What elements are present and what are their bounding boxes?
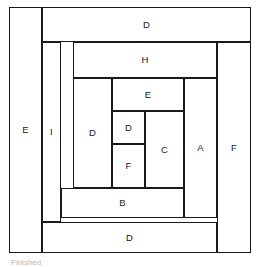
- patch-label: D: [125, 123, 132, 133]
- patch-e-inner: E: [112, 78, 184, 111]
- patch-h: H: [73, 42, 217, 78]
- patch-label: C: [161, 145, 168, 155]
- patch-f-right: F: [217, 42, 251, 253]
- patch-c: C: [145, 111, 184, 188]
- patch-label: I: [50, 127, 53, 137]
- patch-label: H: [141, 55, 148, 65]
- patch-label: D: [143, 20, 150, 30]
- patch-d-small: D: [112, 111, 145, 144]
- patch-label: D: [126, 233, 133, 243]
- patch-b: B: [61, 188, 184, 218]
- patch-label: F: [231, 143, 237, 153]
- patch-d-bottom: D: [42, 222, 217, 253]
- diagram-caption: Finished: [11, 258, 41, 267]
- patch-label: E: [145, 90, 152, 100]
- patch-label: D: [89, 128, 96, 138]
- patch-label: F: [125, 161, 131, 171]
- patch-d-top: D: [42, 7, 251, 42]
- patch-i: I: [42, 42, 61, 222]
- patch-e-left: E: [9, 7, 42, 253]
- patch-label: B: [119, 198, 126, 208]
- patch-d-left: D: [73, 78, 112, 188]
- patch-label: A: [197, 143, 204, 153]
- quilt-block-diagram: EDFDIHABDECDFFinished: [0, 0, 257, 267]
- patch-a: A: [184, 78, 217, 218]
- patch-label: E: [22, 125, 29, 135]
- patch-f-small: F: [112, 144, 145, 188]
